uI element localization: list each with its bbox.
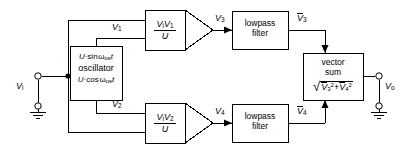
input-terminal-node <box>35 73 41 79</box>
oscillator-sine-line: U·sin ωost <box>70 52 122 62</box>
block-diagram: Vi Vo V1 V2 V3 V4 V3 V4 ViV1 U ViV2 U <box>0 0 403 153</box>
lowpass-bottom-line1: lowpass <box>232 111 288 121</box>
lowpass-top-line2: filter <box>232 28 288 38</box>
radical-sign: √ <box>313 79 320 94</box>
vector-sum-block-text: vector sum √V32+V42 <box>303 57 363 94</box>
signal-label-v3-bar: V3 <box>297 13 307 24</box>
signal-label-v3: V3 <box>215 14 225 24</box>
lowpass-bottom-line2: filter <box>232 121 288 131</box>
oscillator-block-text: U·sin ωost oscillator U·cos ωost <box>70 52 122 85</box>
input-terminal-label: Vi <box>16 82 23 92</box>
output-terminal-node <box>376 73 382 79</box>
lowpass-filter-bottom-text: lowpass filter <box>232 111 288 131</box>
output-ground-node <box>376 103 382 109</box>
output-terminal-label: Vo <box>385 82 395 92</box>
input-ground-node <box>35 103 41 109</box>
oscillator-cosine-line: U·cos ωost <box>70 75 122 85</box>
signal-label-v4-bar: V4 <box>297 106 307 117</box>
vector-sum-line1: vector <box>303 57 363 67</box>
signal-label-v1: V1 <box>112 23 122 33</box>
lowpass-top-line1: lowpass <box>232 18 288 28</box>
multiplier-top-expression: ViV1 U <box>145 19 185 41</box>
signal-label-v4: V4 <box>215 107 225 117</box>
multiplier-bottom-expression: ViV2 U <box>145 112 185 134</box>
signal-label-v2: V2 <box>112 100 122 110</box>
vector-sum-line2: sum <box>303 67 363 77</box>
oscillator-label: oscillator <box>70 62 122 75</box>
vector-sum-formula: √V32+V42 <box>303 77 363 94</box>
lowpass-filter-top-text: lowpass filter <box>232 18 288 38</box>
